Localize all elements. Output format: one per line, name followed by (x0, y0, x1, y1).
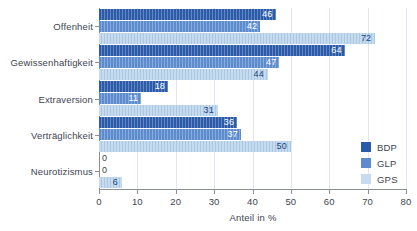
x-tick-label: 0 (96, 196, 101, 207)
x-tick-mark (406, 190, 407, 194)
bar-hatch (99, 33, 375, 44)
bar-value-label: 44 (253, 69, 263, 80)
category-label: Extraversion (38, 93, 93, 104)
legend-swatch-icon (361, 142, 371, 152)
legend-item: GLP (361, 155, 398, 171)
category-tick-mark (95, 26, 100, 27)
bar-hatch (99, 21, 260, 32)
bar: 11 (99, 93, 141, 104)
category-label: Offenheit (53, 21, 93, 32)
x-tick-mark (137, 190, 138, 194)
x-tick-label: 80 (401, 196, 412, 207)
bar: 50 (99, 141, 291, 152)
bar: 44 (99, 69, 268, 80)
bar-value-label: 6 (113, 177, 118, 188)
bar-value-label: 50 (276, 141, 286, 152)
bar-hatch (99, 105, 218, 116)
category-tick-mark (95, 135, 100, 136)
category-tick-mark (95, 99, 100, 100)
bar-value-label: 31 (204, 105, 214, 116)
bar-hatch (99, 129, 241, 140)
x-tick-mark (329, 190, 330, 194)
category-tick-mark (95, 171, 100, 172)
legend-swatch-icon (361, 174, 371, 184)
bar-hatch (99, 117, 237, 128)
bar-value-label: 42 (247, 21, 257, 32)
x-tick-mark (176, 190, 177, 194)
x-tick-label: 20 (170, 196, 181, 207)
legend-label: GLP (377, 158, 397, 169)
x-axis-title: Anteil in % (99, 212, 407, 223)
bar-value-label: 46 (262, 9, 272, 20)
x-tick-mark (253, 190, 254, 194)
bar: 18 (99, 81, 168, 92)
bar: 72 (99, 33, 375, 44)
bar: 64 (99, 45, 345, 56)
x-tick-label: 10 (132, 196, 143, 207)
bar-hatch (99, 57, 279, 68)
bar-chart: OffenheitGewissenhaftigkeitExtraversionV… (0, 0, 417, 231)
category-label: Verträglichkeit (31, 129, 93, 140)
x-tick-mark (291, 190, 292, 194)
bar-value-label: 0 (102, 165, 107, 176)
x-tick-label: 30 (209, 196, 220, 207)
category-label: Gewissenhaftigkeit (11, 57, 93, 68)
x-tick-label: 60 (324, 196, 335, 207)
bar-value-label: 36 (224, 117, 234, 128)
bar: 31 (99, 105, 218, 116)
bar-value-label: 47 (266, 57, 276, 68)
bar: 46 (99, 9, 276, 20)
legend-label: BDP (377, 142, 397, 153)
x-tick-label: 50 (285, 196, 296, 207)
x-tick-label: 40 (247, 196, 258, 207)
category-tick-mark (95, 62, 100, 63)
plot-area: 464272644744181131363750006 (99, 8, 406, 189)
bar-hatch (99, 69, 268, 80)
bar-hatch (99, 141, 291, 152)
bar-value-label: 72 (361, 33, 371, 44)
bar: 36 (99, 117, 237, 128)
legend-item: BDP (361, 139, 398, 155)
category-label: Neurotizismus (31, 165, 93, 176)
bar-hatch (99, 45, 345, 56)
bar-value-label: 37 (228, 129, 238, 140)
bar-value-label: 11 (128, 93, 138, 104)
x-tick-label: 70 (362, 196, 373, 207)
bar-hatch (99, 177, 122, 188)
legend-item: GPS (361, 171, 398, 187)
x-tick-mark (99, 190, 100, 194)
legend: BDPGLPGPS (361, 139, 398, 187)
category-axis-labels: OffenheitGewissenhaftigkeitExtraversionV… (0, 0, 93, 231)
x-tick-mark (368, 190, 369, 194)
bar-value-label: 0 (102, 153, 107, 164)
legend-label: GPS (377, 174, 398, 185)
bar-value-label: 64 (331, 45, 341, 56)
bar-value-label: 18 (155, 81, 165, 92)
bar-hatch (99, 9, 276, 20)
x-tick-mark (214, 190, 215, 194)
bar: 37 (99, 129, 241, 140)
legend-swatch-icon (361, 158, 371, 168)
bar: 42 (99, 21, 260, 32)
gridline (406, 8, 407, 189)
bar: 47 (99, 57, 279, 68)
bar: 6 (99, 177, 122, 188)
